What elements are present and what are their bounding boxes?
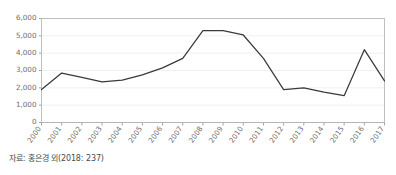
line-chart: 6,0005,0004,0003,0002,0001,0000 20002001… — [0, 0, 396, 150]
x-tick-label: 2009 — [207, 124, 225, 144]
x-tick-label: 2013 — [288, 124, 306, 144]
x-tick-label: 2017 — [368, 124, 386, 144]
x-tick-label: 2006 — [146, 124, 164, 144]
x-tick-label: 2014 — [308, 124, 326, 144]
x-tick-label: 2011 — [247, 124, 265, 144]
x-tick-label: 2001 — [45, 124, 63, 144]
x-tick-label: 2012 — [267, 124, 285, 144]
y-tick-label: 4,000 — [16, 48, 37, 57]
x-tick-label: 2003 — [86, 124, 104, 144]
figure-container: 6,0005,0004,0003,0002,0001,0000 20002001… — [0, 0, 396, 175]
data-series-line — [42, 31, 385, 96]
y-tick-label: 6,000 — [16, 13, 37, 22]
y-axis-tick-labels: 6,0005,0004,0003,0002,0001,0000 — [16, 13, 37, 126]
y-tick-label: 1,000 — [16, 100, 37, 109]
x-tick-label: 2007 — [167, 124, 185, 144]
y-tick-label: 5,000 — [16, 31, 37, 40]
chart-svg: 6,0005,0004,0003,0002,0001,0000 20002001… — [0, 0, 396, 150]
x-tick-label: 2008 — [187, 124, 205, 144]
x-tick-label: 2015 — [328, 124, 346, 144]
y-tick-label: 3,000 — [16, 65, 37, 74]
x-tick-label: 2002 — [66, 124, 84, 144]
x-axis-tick-labels: 2000200120022003200420052006200720082009… — [25, 124, 386, 144]
x-tick-label: 2005 — [126, 124, 144, 144]
x-tick-label: 2000 — [25, 124, 43, 144]
y-tick-label: 2,000 — [16, 83, 37, 92]
x-tick-label: 2016 — [348, 124, 366, 144]
gridlines-group — [39, 19, 385, 123]
source-note: 자료: 홍은경 외(2018: 237) — [9, 152, 104, 163]
x-tick-label: 2010 — [227, 124, 245, 144]
x-tick-label: 2004 — [106, 124, 124, 144]
